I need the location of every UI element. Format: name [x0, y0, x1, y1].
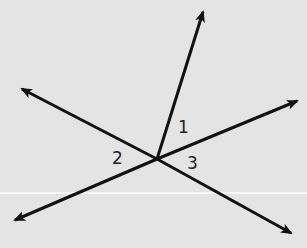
diagram-svg: 1 2 3 [0, 0, 307, 248]
angle-diagram: 1 2 3 [0, 0, 307, 248]
ray-lower-right [157, 159, 291, 233]
ray-lower-left [15, 159, 157, 220]
angle-label-3: 3 [187, 153, 198, 173]
angle-label-1: 1 [178, 117, 189, 137]
ray-upper-left [22, 89, 157, 159]
angle-label-2: 2 [112, 148, 123, 168]
